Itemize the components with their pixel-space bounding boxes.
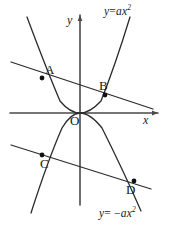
point-marker-A: [40, 76, 45, 81]
equation-upper-operator: =: [109, 5, 116, 17]
equation-upper-rhs: ax: [116, 5, 127, 17]
y-axis-arrow-icon: [78, 15, 83, 21]
point-label-D: D: [126, 183, 135, 196]
point-marker-B: [103, 93, 108, 98]
equation-lower-operator: = −: [104, 207, 120, 219]
equation-lower-rhs: ax: [121, 207, 132, 219]
equation-label-upper: y=ax2: [104, 6, 131, 18]
equation-lower-exponent: 2: [132, 205, 136, 214]
point-label-C: C: [40, 157, 49, 170]
math-figure: y=ax2 y= −ax2 x y O A B C D: [0, 0, 170, 226]
origin-label: O: [70, 114, 79, 127]
point-label-A: A: [45, 63, 54, 76]
line-AB: [11, 62, 153, 109]
parabola-up-curve: [27, 17, 130, 113]
point-label-B: B: [99, 79, 108, 92]
y-axis-label: y: [67, 14, 72, 26]
equation-upper-exponent: 2: [127, 3, 131, 12]
y-axis-group: [78, 15, 83, 205]
x-axis-arrow-icon: [152, 111, 158, 116]
equation-label-lower: y= −ax2: [99, 208, 136, 220]
x-axis-label: x: [143, 114, 148, 126]
